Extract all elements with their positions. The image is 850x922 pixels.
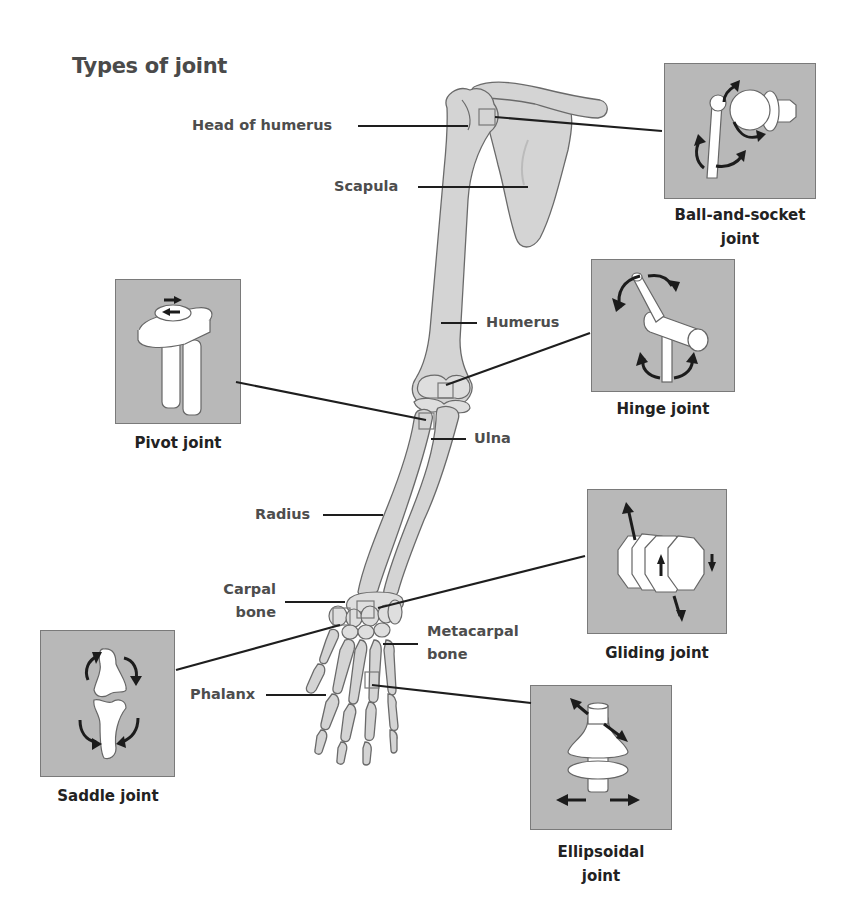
pivot-joint-icon bbox=[138, 296, 212, 415]
hinge-joint-label: Hinge joint bbox=[583, 397, 743, 421]
hand-bones bbox=[306, 629, 398, 765]
ellipsoidal-joint-label-line1: Ellipsoidal bbox=[521, 840, 681, 864]
ulna-label: Ulna bbox=[474, 427, 511, 450]
carpal-bone-label-line2: bone bbox=[220, 601, 276, 624]
pivot-leader bbox=[236, 382, 426, 420]
pivot-joint-label: Pivot joint bbox=[98, 431, 258, 455]
carpal-bone-label-line1: Carpal bbox=[220, 578, 276, 601]
carpal-bone-label: Carpal bone bbox=[220, 578, 276, 624]
metacarpal-bone-label-line2: bone bbox=[427, 643, 519, 666]
ellipsoidal-joint-icon bbox=[556, 698, 640, 806]
gliding-joint-icon bbox=[618, 502, 716, 622]
saddle-leader bbox=[176, 625, 340, 670]
ellipsoidal-joint-label-line2: joint bbox=[521, 864, 681, 888]
scapula-label: Scapula bbox=[334, 175, 398, 198]
hinge-joint-icon bbox=[612, 273, 708, 382]
ball-and-socket-joint-label-line1: Ball-and-socket bbox=[652, 203, 828, 227]
phalanx-label: Phalanx bbox=[190, 683, 255, 706]
hinge-leader bbox=[446, 333, 590, 385]
saddle-joint-label: Saddle joint bbox=[28, 784, 188, 808]
saddle-joint-icon bbox=[80, 649, 142, 759]
ball-and-socket-joint-label-line2: joint bbox=[652, 227, 828, 251]
humerus-bone bbox=[412, 89, 498, 405]
radius-label: Radius bbox=[255, 503, 310, 526]
head-of-humerus-label: Head of humerus bbox=[192, 114, 332, 137]
metacarpal-bone-label: Metacarpal bone bbox=[427, 620, 519, 666]
metacarpal-bone-label-line1: Metacarpal bbox=[427, 620, 519, 643]
ball-and-socket-joint-icon bbox=[694, 80, 796, 178]
carpal-bones bbox=[329, 592, 403, 639]
humerus-label: Humerus bbox=[486, 311, 560, 334]
ellipsoidal-joint-label: Ellipsoidal joint bbox=[521, 840, 681, 888]
gliding-joint-label: Gliding joint bbox=[577, 641, 737, 665]
gliding-leader bbox=[378, 556, 585, 608]
ball-and-socket-joint-label: Ball-and-socket joint bbox=[652, 203, 828, 251]
